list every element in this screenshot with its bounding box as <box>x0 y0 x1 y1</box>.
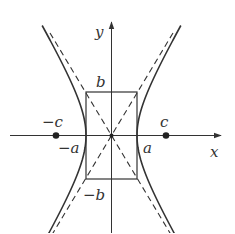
focus-pos-c <box>163 132 170 139</box>
b-label: b <box>96 73 106 91</box>
focus-neg-c <box>53 132 60 139</box>
hyperbola-branch-right <box>137 26 181 234</box>
y-axis-label: y <box>94 23 104 41</box>
neg-a-label: −a <box>58 139 80 157</box>
a-label: a <box>143 139 152 157</box>
x-axis-label: x <box>210 143 219 161</box>
c-label: c <box>160 113 169 131</box>
neg-c-label: −c <box>42 113 64 131</box>
neg-b-label: −b <box>83 186 105 204</box>
origin-marker <box>110 134 113 137</box>
hyperbola-diagram: y x b −b a −a c −c <box>0 0 235 233</box>
